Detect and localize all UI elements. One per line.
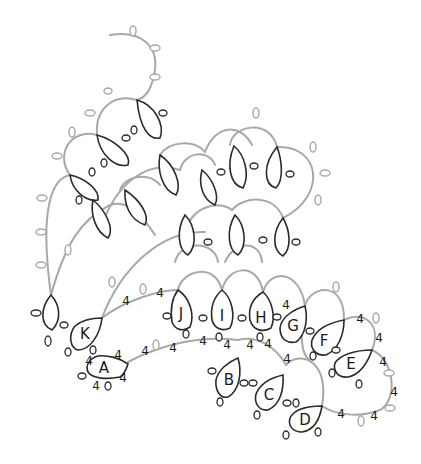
stitch-count: 4 [337,407,345,421]
stitch-count: 4 [283,352,291,366]
picot [130,26,136,36]
picot [240,380,248,386]
picot [315,195,321,205]
picot [45,336,51,346]
chain-arc [305,290,344,320]
ring-label-i: I [220,307,224,325]
ring-label-f: F [320,332,329,350]
picot [183,330,189,338]
stitch-count: 4 [223,338,231,352]
ring-label-g: G [287,317,299,335]
picot [131,126,137,134]
ring-label-k: K [80,325,91,343]
picot [292,239,300,245]
picot [65,245,71,255]
picot [76,196,82,204]
picot [332,347,340,353]
ring [229,215,244,255]
picot [373,313,379,323]
stitch-count: 4 [122,294,130,308]
chain-arc [225,246,262,263]
stitch-count: 4 [282,298,290,312]
ring [275,218,289,256]
picot [250,163,258,169]
picot [333,282,339,292]
chain-arc [286,359,323,406]
picot [65,348,71,356]
picot [254,411,260,419]
chain-arc [232,200,283,218]
ring-label-h: H [255,309,266,327]
stitch-count: 4 [246,338,254,352]
picot [36,229,46,235]
picot [385,405,395,411]
ring-label-d: D [299,411,311,429]
picot [140,284,146,294]
picot [31,310,41,316]
picot [216,333,222,341]
picot [208,368,216,374]
ring [125,190,146,225]
picot [253,108,259,118]
ring-label-b: B [224,371,234,389]
picot [52,153,62,159]
picot [37,195,47,201]
ring [201,170,217,205]
picot [283,431,289,439]
chain-arc [205,130,252,152]
picot [249,380,257,386]
ring [266,147,281,188]
picot [163,313,171,319]
tatting-diagram: A B C D E F G H I J K 4 4 4 4 4 4 4 4 4 … [0,0,421,464]
chain-arc [178,272,222,290]
ring [230,146,246,188]
stitch-count: 4 [169,341,177,355]
picot [293,399,299,407]
picot [238,315,246,321]
ring [159,155,178,195]
stitch-count: 4 [199,334,207,348]
picot [356,380,362,388]
picot [306,328,314,334]
ring [179,215,194,255]
picot [78,373,86,379]
picot [60,322,68,328]
picot [85,110,95,116]
picot [122,135,130,141]
picot [36,262,46,268]
picot [310,352,316,360]
picot [329,369,335,377]
picot [109,277,115,287]
picot [101,159,107,167]
stitch-count: 4 [264,337,272,351]
picot [90,346,96,354]
chain-arc [180,154,215,170]
stitch-count: 4 [119,371,127,385]
picot [150,45,160,51]
picot [104,88,112,94]
picot [159,110,167,116]
picot [89,168,95,176]
ring [70,175,98,200]
ring-label-a: A [99,359,110,377]
ring [43,295,59,330]
ring [137,100,161,138]
picot [384,370,394,376]
ring-label-e: E [346,355,355,373]
stitch-count: 4 [141,344,149,358]
picot [153,340,159,350]
picot [273,314,281,320]
picot [199,315,207,321]
picot [259,237,267,243]
stitch-count: 4 [85,354,93,368]
picot [69,127,75,137]
chain-arc [277,147,313,218]
picot [286,171,294,177]
stitch-count: 4 [379,355,387,369]
picot [320,170,330,176]
stitch-count: 4 [390,385,398,399]
picot [315,428,321,436]
stitch-count: 4 [375,331,383,345]
picot [217,169,225,175]
chain-arc [46,175,70,295]
